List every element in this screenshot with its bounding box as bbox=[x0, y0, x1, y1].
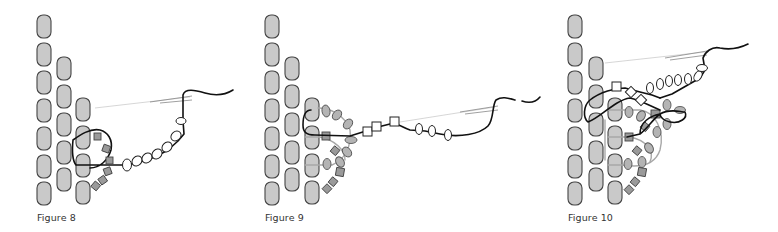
grey-square-beads bbox=[624, 110, 660, 195]
figure-10: Figure 10 bbox=[0, 0, 778, 232]
thread-end-left bbox=[522, 97, 540, 102]
needle-icon bbox=[605, 51, 707, 63]
bead-column-2 bbox=[589, 57, 603, 191]
white-oval-beads bbox=[647, 65, 708, 94]
figure-10-caption: Figure 10 bbox=[568, 212, 613, 223]
figure-10-illustration bbox=[0, 0, 778, 232]
bead-column-1 bbox=[568, 15, 582, 205]
bead-column-3 bbox=[608, 98, 622, 204]
